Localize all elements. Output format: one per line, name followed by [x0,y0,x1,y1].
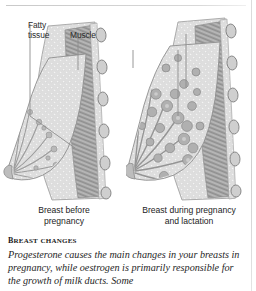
figure-breast-during-pregnancy: Milk duct Milk-producing gland [126,8,252,204]
illustrated-page: Fatty tissue Muscle [0,0,256,291]
top-divider [6,5,246,6]
label-fatty-tissue: Fatty tissue [28,20,49,40]
breast-anatomy-figure-group: Fatty tissue Muscle [0,8,252,204]
caption-breast-before-pregnancy: Breast before pregnancy [4,205,124,227]
article-text-block: Breast changes Progesterone causes the m… [8,233,246,288]
breast-cross-section-during [126,8,252,204]
label-muscle: Muscle [70,30,96,40]
figure-breast-before-pregnancy: Fatty tissue Muscle [2,8,128,204]
caption-breast-during-pregnancy: Breast during pregnancy and lactation [126,205,252,227]
article-body: Progesterone causes the main changes in … [8,248,246,288]
article-heading: Breast changes [8,233,246,246]
breast-cross-section-before [2,8,128,204]
